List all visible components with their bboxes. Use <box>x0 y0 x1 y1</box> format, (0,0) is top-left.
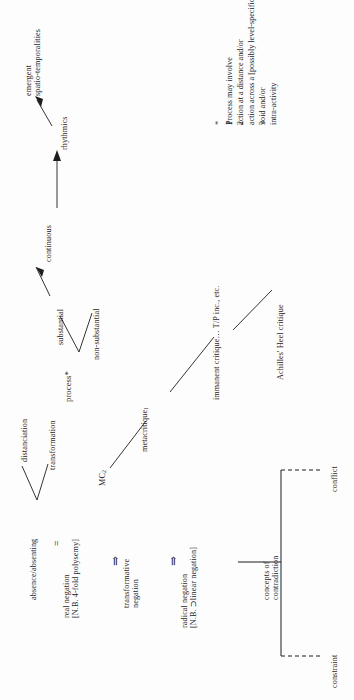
arrow-transformative-to-radical: ⇒ <box>166 556 181 566</box>
label-non-substantial: non-substantial <box>92 308 101 360</box>
edge-immanent-achilles <box>233 290 272 330</box>
label-metacritique1: metacritique1 <box>140 407 150 452</box>
label-concepts-of-contradiction: concepts of contradiction <box>262 556 281 601</box>
label-transformative-negation: transformative negation <box>122 559 141 608</box>
label-immanent-critique-tail: … T/P inc., etc. <box>212 286 221 339</box>
label-achilles-heel-critique: Achilles' Heel critique <box>276 304 285 380</box>
label-mc2-text: MC <box>98 473 107 486</box>
label-substantial: substantial <box>56 309 65 345</box>
label-immanent-critique-text: immanent critique <box>212 339 221 401</box>
label-constraint: constraint <box>330 655 339 688</box>
label-process-root: process* <box>64 371 74 402</box>
label-metacritique1-text: metacritique <box>140 410 149 452</box>
label-mc2: MC2 <box>98 470 108 486</box>
label-absence-absenting: absence/absenting <box>29 539 38 600</box>
label-real-negation: real negation [N.B. 4-fold polysemy] <box>62 539 81 618</box>
edge-metacritique-immanent <box>170 337 214 392</box>
label-transformation: transformation <box>48 420 57 470</box>
label-radical-negation: radical negation [N.B. ⊃linear negation] <box>180 547 199 628</box>
edge-process-nonsubstantial <box>79 313 92 352</box>
diagram-connectors <box>0 0 354 700</box>
edge-rhythmics-emergent <box>37 100 52 126</box>
diagram-canvas: emergent spatio-temporalities rhythmics … <box>0 0 354 700</box>
label-rhythmics: rhythmics <box>60 116 69 150</box>
label-metacritique1-subscript: 1 <box>143 407 149 410</box>
label-continuous: continuous <box>44 225 53 262</box>
edge-absence-distanciation <box>22 466 37 500</box>
label-equals-sign: = <box>52 541 62 546</box>
arrowhead-rhythmics <box>53 150 61 161</box>
footnote-text: Process may involve action at a distance… <box>224 0 279 125</box>
edge-absence-transformation <box>37 464 48 500</box>
label-mc2-subscript: 2 <box>101 470 107 473</box>
arrowhead-emergent <box>35 96 43 107</box>
arrow-real-to-transformative: ⇒ <box>108 556 123 566</box>
label-immanent-critique: immanent critique… T/P inc., etc. <box>212 286 221 401</box>
label-distanciation: distanciation <box>20 419 29 462</box>
label-conflict: conflict <box>330 466 339 492</box>
label-emergent-spatio-temporalities: emergent spatio-temporalities <box>24 29 43 96</box>
